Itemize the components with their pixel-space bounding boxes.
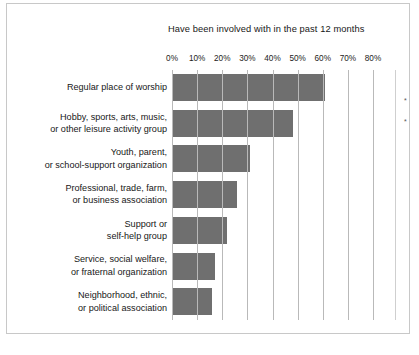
category-label-line: Regular place of worship (67, 82, 167, 92)
category-label-line: Neighborhood, ethnic, (78, 290, 167, 300)
gridline (197, 70, 198, 320)
category-label: Service, social welfare,or fraternal org… (12, 253, 167, 278)
category-label-line: Support or (125, 219, 167, 229)
category-label: Neighborhood, ethnic,or political associ… (12, 289, 167, 314)
gridline (172, 70, 173, 320)
gridline (323, 70, 324, 320)
chart-title: Have been involved with in the past 12 m… (168, 24, 414, 34)
bar (172, 253, 215, 280)
category-label-line: or political association (12, 302, 167, 314)
category-label-line: or business association (12, 194, 167, 206)
category-label-line: or other leisure activity group (12, 123, 167, 135)
category-axis-labels: Regular place of worshipHobby, sports, a… (12, 70, 167, 320)
category-label: Support orself-help group (12, 218, 167, 243)
gridline (348, 70, 349, 320)
bar (172, 110, 293, 137)
x-tick-label: 80% (365, 54, 381, 63)
bar (172, 181, 237, 208)
footnote-asterisk: * (404, 118, 407, 125)
x-tick-label: 10% (189, 54, 205, 63)
category-label: Professional, trade, farm,or business as… (12, 182, 167, 207)
x-tick-label: 60% (315, 54, 331, 63)
plot-right-rule (395, 70, 396, 320)
x-tick-label: 0% (166, 54, 178, 63)
x-tick-label: 50% (289, 54, 305, 63)
category-label-line: Professional, trade, farm, (65, 183, 167, 193)
category-label: Hobby, sports, arts, music,or other leis… (12, 111, 167, 136)
category-label: Regular place of worship (12, 81, 167, 93)
gridline (222, 70, 223, 320)
category-label: Youth, parent,or school-support organiza… (12, 146, 167, 171)
gridline (273, 70, 274, 320)
plot-area (172, 70, 373, 320)
bar (172, 145, 250, 172)
gridline (247, 70, 248, 320)
x-tick-label: 20% (214, 54, 230, 63)
gridline (298, 70, 299, 320)
category-label-line: or school-support organization (12, 159, 167, 171)
x-tick-label: 70% (340, 54, 356, 63)
bar (172, 288, 212, 315)
category-label-line: Hobby, sports, arts, music, (60, 112, 167, 122)
x-tick-label: 40% (264, 54, 280, 63)
footnote-asterisk: * (404, 97, 407, 104)
bar (172, 217, 227, 244)
figure-canvas: Have been involved with in the past 12 m… (0, 0, 419, 355)
category-label-line: self-help group (12, 230, 167, 242)
x-tick-label: 30% (239, 54, 255, 63)
category-label-line: or fraternal organization (12, 266, 167, 278)
category-label-line: Youth, parent, (111, 147, 167, 157)
x-axis-tick-labels: 0%10%20%30%40%50%60%70%80% (172, 54, 373, 66)
bar (172, 74, 325, 101)
gridline (373, 70, 374, 320)
category-label-line: Service, social welfare, (74, 254, 167, 264)
